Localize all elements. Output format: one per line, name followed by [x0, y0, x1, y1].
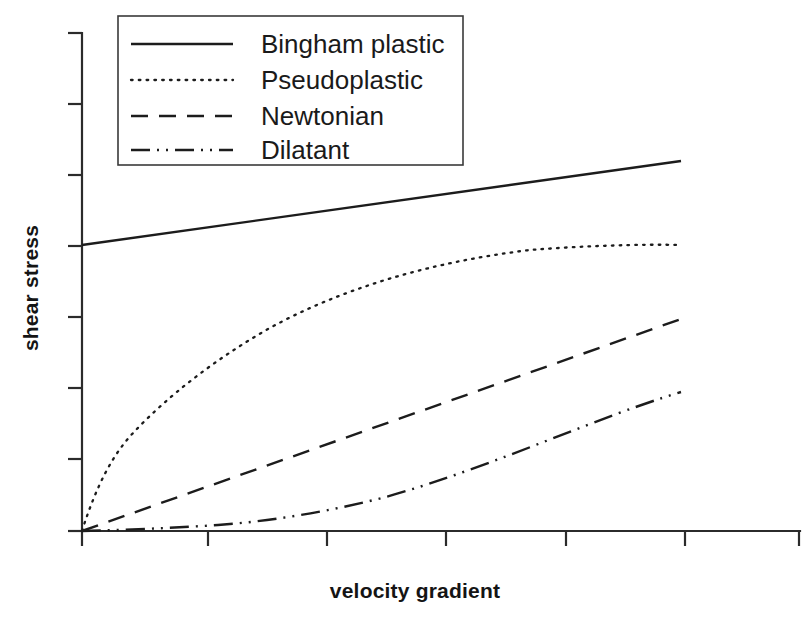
legend-label-dilatant: Dilatant — [261, 135, 350, 165]
rheology-flow-curve-chart: Bingham plastic Pseudoplastic Newtonian … — [0, 0, 812, 623]
x-axis-label: velocity gradient — [330, 579, 500, 602]
legend-label-bingham-plastic: Bingham plastic — [261, 29, 445, 59]
legend[interactable]: Bingham plastic Pseudoplastic Newtonian … — [118, 16, 463, 165]
legend-label-pseudoplastic: Pseudoplastic — [261, 65, 423, 95]
legend-label-newtonian: Newtonian — [261, 101, 384, 131]
y-axis-label: shear stress — [19, 225, 42, 351]
